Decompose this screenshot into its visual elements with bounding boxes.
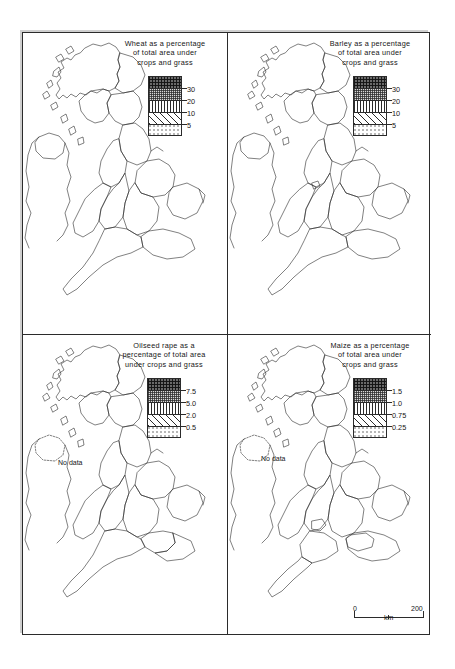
region-kent-sussex: [155, 533, 195, 561]
region-east-anglia: [372, 183, 408, 219]
legend-swatch-vertical: [148, 100, 182, 112]
legend-label: 0.75: [392, 411, 406, 420]
legend-swatch-check: [353, 88, 387, 100]
legend-class-4: [148, 124, 182, 136]
legend-label: 30: [392, 85, 400, 94]
scale-bar-unit-label: km: [384, 614, 393, 622]
region-northern-ireland: [35, 133, 65, 159]
legend-class-3: 0.5: [147, 414, 181, 426]
legend-swatch-check: [148, 88, 182, 100]
legend-label: 1.5: [392, 387, 402, 396]
legend-swatch-dots: [353, 124, 387, 136]
region-somerset-devon: [300, 531, 338, 563]
legend-swatch-check: [147, 390, 181, 402]
legend-swatch-dark: [147, 378, 181, 390]
region-south-west-england: [268, 227, 348, 295]
region-yorkshire-humberside: [135, 461, 175, 499]
region-northern-ireland: [240, 133, 270, 159]
legend-swatch-dark: [353, 378, 387, 390]
legend-oilseed-rape: Oilseed rape as a percentage of total ar…: [105, 341, 223, 438]
region-northern-ireland-no-data: [35, 435, 65, 461]
region-east-midlands: [123, 485, 159, 537]
legend-label: 0.25: [392, 423, 406, 432]
legend-label: 7.5: [186, 387, 196, 396]
legend-class-1: 1.0: [353, 390, 387, 402]
region-south-east-england: [141, 229, 195, 259]
no-data-label: No data: [261, 455, 286, 463]
legend-class-4: [353, 124, 387, 136]
legend-title: Oilseed rape as a percentage of total ar…: [105, 341, 223, 369]
legend-title: Maize as a percentage of total area unde…: [312, 341, 428, 369]
map-panel-barley: Barley as a percentage of total area und…: [227, 33, 431, 334]
legend-swatch-dots: [148, 124, 182, 136]
region-yorkshire-humberside: [340, 159, 380, 197]
legend-class-2: 2.0: [147, 402, 181, 414]
legend-class-0: 30: [148, 76, 182, 88]
legend-class-3: 0.25: [353, 414, 387, 426]
legend-class-2: 0.75: [353, 402, 387, 414]
legend-class-1: 5.0: [147, 390, 181, 402]
legend-wheat: Wheat as a percentage of total area unde…: [107, 39, 223, 136]
legend-key: 1.5 1.0 0.75 0.25: [353, 378, 387, 438]
legend-swatch-diagonal: [353, 414, 387, 426]
legend-key: 30 20 10 5: [148, 76, 182, 136]
map-panel-oilseed-rape: No data Oilseed rape as a percentage of …: [23, 334, 227, 635]
legend-title: Wheat as a percentage of total area unde…: [107, 39, 223, 67]
region-north-west-england: [99, 139, 127, 187]
region-east-midlands: [328, 485, 364, 537]
legend-label: 5.0: [186, 399, 196, 408]
region-south-west-england: [268, 557, 312, 597]
legend-label: 10: [392, 109, 400, 118]
legend-class-0: 7.5: [147, 378, 181, 390]
legend-barley: Barley as a percentage of total area und…: [312, 39, 428, 136]
legend-label: 10: [187, 109, 195, 118]
legend-class-1: 20: [148, 88, 182, 100]
legend-swatch-vertical: [353, 100, 387, 112]
legend-class-3: 5: [353, 112, 387, 124]
no-data-label: No data: [58, 459, 83, 467]
legend-swatch-dots: [353, 426, 387, 438]
legend-swatch-check: [353, 390, 387, 402]
legend-label: 5: [187, 121, 191, 130]
region-east-anglia: [372, 485, 408, 521]
scale-bar-min-label: 0: [353, 605, 357, 613]
legend-class-0: 1.5: [353, 378, 387, 390]
region-south-east-england: [346, 531, 400, 561]
scale-bar-tick-end: [423, 611, 424, 618]
scale-bar-max-label: 200: [411, 605, 423, 613]
legend-swatch-vertical: [147, 402, 181, 414]
map-panel-maize: No data Maize as a percentage of total a…: [227, 334, 431, 635]
region-south-east-england: [141, 531, 175, 553]
legend-class-0: 30: [353, 76, 387, 88]
region-east-anglia: [167, 485, 203, 521]
legend-label: 5: [392, 121, 396, 130]
region-north-west-england: [304, 139, 332, 187]
legend-label: 2.0: [186, 411, 196, 420]
legend-label: 30: [187, 85, 195, 94]
legend-swatch-diagonal: [148, 112, 182, 124]
legend-maize: Maize as a percentage of total area unde…: [312, 341, 428, 438]
legend-swatch-diagonal: [147, 414, 181, 426]
legend-class-2: 10: [148, 100, 182, 112]
region-east-anglia: [167, 183, 203, 219]
legend-swatch-dark: [353, 76, 387, 88]
region-south-east-england: [346, 229, 400, 259]
region-south-west-england: [63, 227, 143, 295]
legend-key: 30 20 10 5: [353, 76, 387, 136]
scale-bar: 0 km 200: [354, 605, 424, 623]
legend-label: 0.5: [186, 423, 196, 432]
map-panel-wheat: Wheat as a percentage of total area unde…: [23, 33, 227, 334]
legend-swatch-vertical: [353, 402, 387, 414]
legend-swatch-dots: [147, 426, 181, 438]
region-yorkshire-humberside: [340, 461, 380, 499]
region-yorkshire-humberside: [135, 159, 175, 197]
legend-class-3: 5: [148, 112, 182, 124]
legend-class-4: [147, 426, 181, 438]
legend-class-2: 10: [353, 100, 387, 112]
region-north-west-england: [304, 441, 332, 489]
legend-label: 20: [392, 97, 400, 106]
region-south-west-england: [63, 529, 145, 597]
region-east-midlands: [328, 183, 364, 235]
legend-swatch-dark: [148, 76, 182, 88]
legend-class-1: 20: [353, 88, 387, 100]
